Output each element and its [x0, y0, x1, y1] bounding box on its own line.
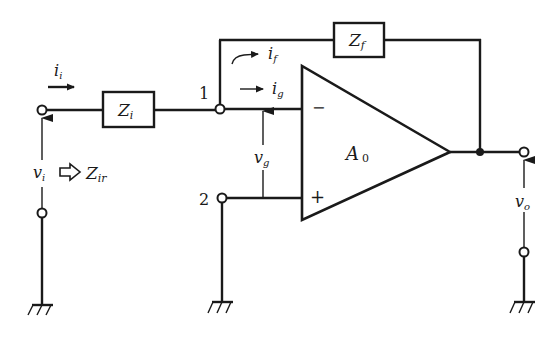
- noninverting-sign: +: [310, 186, 325, 207]
- node-1-terminal: [216, 105, 225, 114]
- output-voltage-arrow: vo: [515, 160, 530, 247]
- zir-label: Zir: [85, 163, 107, 185]
- input-impedance-annotation: Zir: [60, 163, 107, 185]
- output-terminal-top: [520, 148, 529, 157]
- vi-label: vi: [33, 163, 45, 183]
- input-voltage-arrow: vi: [33, 118, 45, 208]
- ground-symbol-node2: [208, 203, 233, 313]
- node-2-label: 2: [199, 190, 209, 209]
- feedback-current-arrow: if: [232, 44, 279, 64]
- input-terminal-top: [38, 106, 47, 115]
- if-label: if: [268, 44, 279, 64]
- output-junction-dot: [476, 148, 484, 156]
- ig-label: ig: [272, 79, 284, 99]
- ii-label: ii: [54, 61, 62, 81]
- hollow-arrow-icon: [60, 164, 80, 180]
- opamp-circuit-diagram: Zi ii vi Zir 1: [0, 0, 554, 342]
- feedback-impedance-zf: Zf: [334, 23, 384, 57]
- input-impedance-zi: Zi: [103, 92, 154, 127]
- inverting-sign: −: [312, 98, 325, 117]
- input-terminal-bottom: [38, 209, 47, 218]
- output-terminal-bottom: [520, 248, 529, 257]
- ground-symbol-input: [28, 218, 53, 315]
- vg-label: vg: [254, 148, 269, 168]
- node-1-label: 1: [199, 84, 209, 103]
- opamp-input-current-arrow: ig: [240, 79, 284, 99]
- opamp-triangle: − + A0: [302, 66, 450, 220]
- vo-label: vo: [515, 192, 530, 212]
- node-2-terminal: [218, 194, 227, 203]
- differential-voltage-arrow: vg: [254, 111, 269, 198]
- input-current-arrow: ii: [48, 61, 74, 87]
- ground-symbol-output: [510, 257, 535, 313]
